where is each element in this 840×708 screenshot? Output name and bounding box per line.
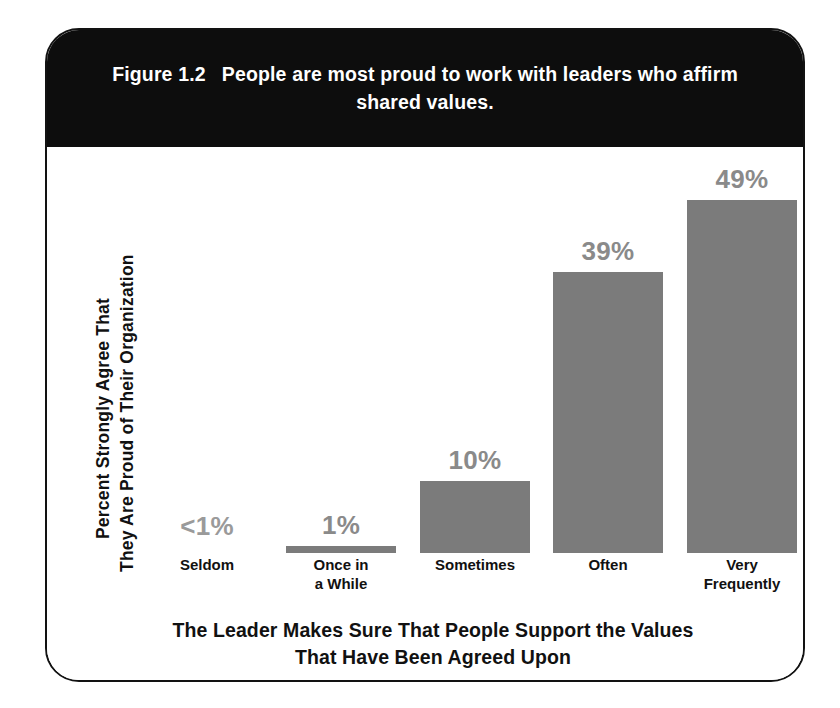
- chart-plot-region: Percent Strongly Agree That They Are Pro…: [47, 147, 803, 680]
- bar-column: 49%: [687, 157, 797, 553]
- figure-caption-band: Figure 1.2People are most proud to work …: [47, 30, 803, 147]
- bar-sometimes[interactable]: [420, 481, 530, 553]
- x-tick-label-line: Once in: [276, 555, 406, 574]
- x-tick-label-line: Very: [677, 555, 805, 574]
- figure-frame: Figure 1.2People are most proud to work …: [45, 28, 805, 682]
- x-tick-label: Once ina While: [276, 555, 406, 593]
- x-axis-title: The Leader Makes Sure That People Suppor…: [97, 617, 769, 672]
- bars-area: <1%1%10%39%49%: [152, 157, 797, 553]
- x-tick-label-line: Seldom: [142, 555, 272, 574]
- figure-number: Figure 1.2: [112, 63, 206, 85]
- bar-value-label: 49%: [687, 166, 797, 192]
- x-tick-label-line: Frequently: [677, 574, 805, 593]
- x-tick-label: Sometimes: [410, 555, 540, 574]
- x-axis-title-line-2: That Have Been Agreed Upon: [97, 644, 769, 671]
- x-axis-tick-labels: SeldomOnce ina WhileSometimesOftenVeryFr…: [152, 555, 797, 613]
- x-axis-title-line-1: The Leader Makes Sure That People Suppor…: [97, 617, 769, 644]
- bar-column: <1%: [152, 157, 262, 553]
- bar-value-label: 1%: [286, 512, 396, 538]
- bar-often[interactable]: [553, 272, 663, 553]
- figure-caption: People are most proud to work with leade…: [222, 63, 738, 113]
- bar-column: 1%: [286, 157, 396, 553]
- y-axis-title-line-2: They Are Proud of Their Organization: [117, 254, 138, 572]
- y-axis-title-line-1: Percent Strongly Agree That: [93, 298, 114, 539]
- bar-value-label: 39%: [553, 238, 663, 264]
- bar-column: 10%: [420, 157, 530, 553]
- x-tick-label: Seldom: [142, 555, 272, 574]
- x-tick-label-line: a While: [276, 574, 406, 593]
- x-tick-label: VeryFrequently: [677, 555, 805, 593]
- bar-very-frequently[interactable]: [687, 200, 797, 553]
- bar-value-label: <1%: [152, 513, 262, 539]
- x-tick-label: Often: [543, 555, 673, 574]
- x-tick-label-line: Often: [543, 555, 673, 574]
- bar-once-in-a-while[interactable]: [286, 546, 396, 553]
- x-tick-label-line: Sometimes: [410, 555, 540, 574]
- figure-caption-text: Figure 1.2People are most proud to work …: [103, 61, 747, 116]
- bar-value-label: 10%: [420, 447, 530, 473]
- bar-column: 39%: [553, 157, 663, 553]
